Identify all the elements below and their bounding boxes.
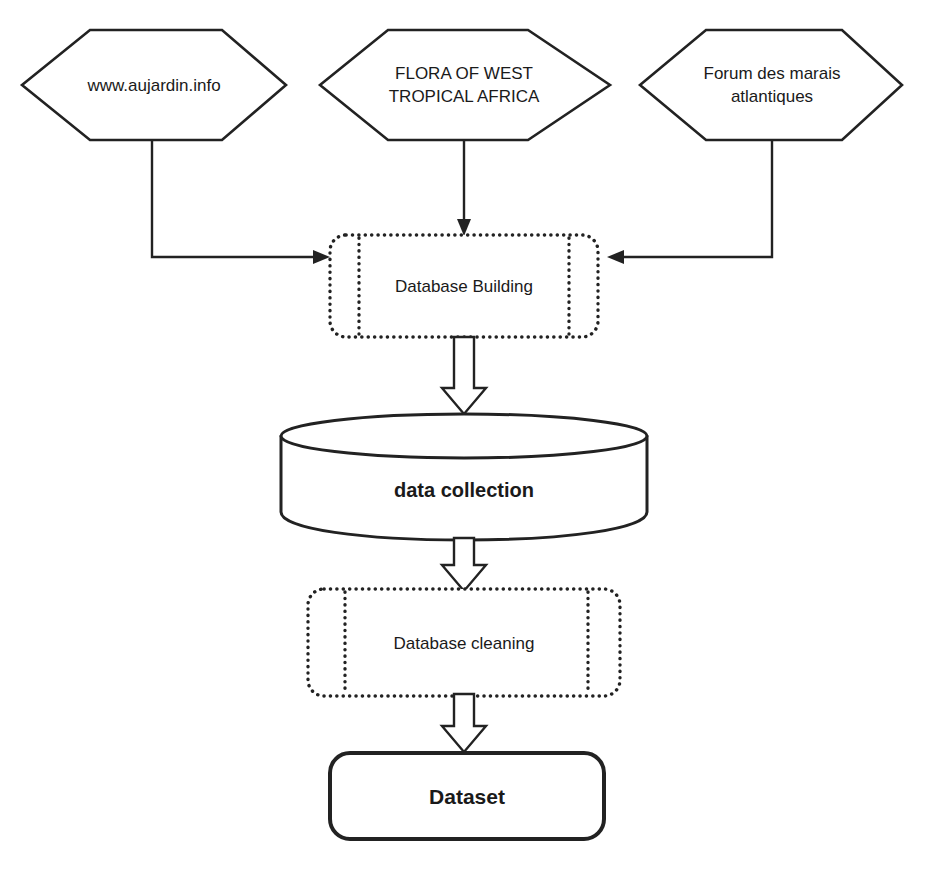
arrowhead-icon	[313, 250, 330, 264]
connector-aujardin-to-building	[152, 140, 330, 264]
block-arrow-icon	[442, 337, 486, 414]
flowchart-canvas: www.aujardin.info FLORA OF WEST TROPICAL…	[0, 0, 926, 876]
connector-building-to-collection	[442, 337, 486, 414]
arrowhead-icon	[457, 219, 471, 236]
hexagon-shape	[320, 30, 610, 140]
terminator-node-dataset[interactable]: Dataset	[330, 753, 604, 839]
cylinder-top-ellipse	[281, 414, 647, 458]
process-node-database-cleaning[interactable]: Database cleaning	[308, 589, 620, 696]
source-label-forum-line2: atlantiques	[731, 87, 813, 106]
source-node-forum[interactable]: Forum des marais atlantiques	[640, 30, 902, 140]
connector-forum-to-building	[607, 140, 772, 264]
connector-line	[621, 140, 772, 257]
connector-flora-to-building	[457, 140, 471, 236]
arrowhead-icon	[607, 250, 624, 264]
source-label-flora-line2: TROPICAL AFRICA	[389, 87, 540, 106]
source-node-aujardin[interactable]: www.aujardin.info	[22, 30, 286, 140]
source-label-forum-line1: Forum des marais	[704, 64, 841, 83]
process-label-database-building: Database Building	[395, 277, 533, 296]
source-label-flora-line1: FLORA OF WEST	[395, 64, 533, 83]
block-arrow-icon	[442, 694, 486, 752]
connector-line	[152, 140, 316, 257]
source-node-flora[interactable]: FLORA OF WEST TROPICAL AFRICA	[320, 30, 610, 140]
connector-cleaning-to-dataset	[442, 694, 486, 752]
hexagon-shape	[640, 30, 902, 140]
terminator-label-dataset: Dataset	[429, 785, 505, 808]
source-label-aujardin: www.aujardin.info	[86, 76, 220, 95]
block-arrow-icon	[442, 538, 486, 591]
flowchart-svg: www.aujardin.info FLORA OF WEST TROPICAL…	[0, 0, 926, 876]
datastore-node-data-collection[interactable]: data collection	[281, 414, 647, 540]
datastore-label-data-collection: data collection	[394, 479, 534, 501]
process-label-database-cleaning: Database cleaning	[394, 634, 535, 653]
process-node-database-building[interactable]: Database Building	[330, 235, 598, 337]
connector-collection-to-cleaning	[442, 538, 486, 591]
